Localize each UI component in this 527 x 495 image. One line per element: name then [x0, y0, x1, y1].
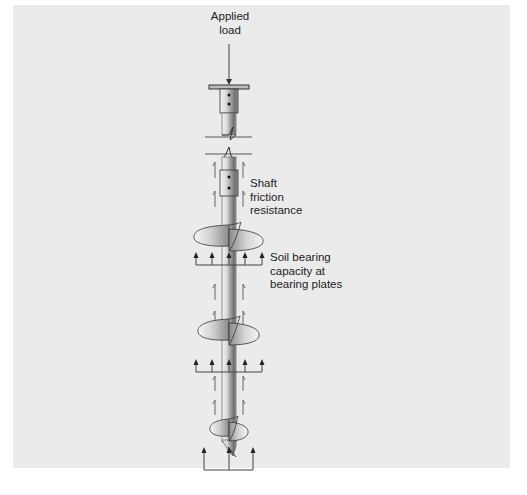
- applied-load-arrow: [226, 44, 232, 85]
- pile-shaft: [220, 157, 238, 457]
- bolt-icon: [228, 94, 231, 97]
- bearing-arrows-row-3: [202, 447, 256, 470]
- bearing-arrows-row-2: [194, 359, 265, 372]
- shaft-friction-label: Shaft friction resistance: [250, 177, 302, 218]
- shaft-coupling: [220, 170, 238, 196]
- applied-load-label-line: load: [206, 24, 254, 38]
- helix-plate-3: [210, 416, 248, 441]
- bearing-arrows-row-1: [194, 252, 265, 265]
- helical-pile-diagram: [0, 0, 527, 495]
- bolt-icon: [228, 103, 231, 106]
- applied-load-label: Applied load: [206, 10, 254, 37]
- pile-cap: [209, 85, 249, 135]
- shaft-friction-label-line: resistance: [250, 204, 302, 218]
- soil-bearing-label-line: bearing plates: [270, 278, 342, 292]
- shaft-friction-label-line: friction: [250, 191, 302, 205]
- shaft-friction-label-line: Shaft: [250, 177, 302, 191]
- applied-load-label-line: Applied: [206, 10, 254, 24]
- soil-bearing-label-line: capacity at: [270, 265, 342, 279]
- soil-bearing-label: Soil bearing capacity at bearing plates: [270, 251, 342, 292]
- soil-bearing-label-line: Soil bearing: [270, 251, 342, 265]
- bolt-icon: [228, 187, 231, 190]
- bolt-icon: [228, 176, 231, 179]
